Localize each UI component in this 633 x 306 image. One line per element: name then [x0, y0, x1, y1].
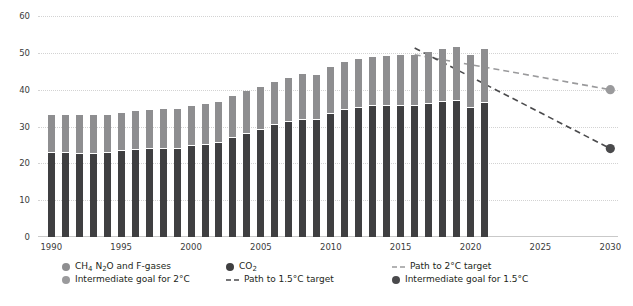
bar	[174, 109, 181, 237]
bar-segment-co2	[397, 106, 404, 237]
bar-segment-other-gases	[62, 115, 69, 152]
bar	[118, 113, 125, 237]
bar-segment-other-gases	[327, 67, 334, 112]
bar-segment-co2	[118, 151, 125, 237]
bar-segment-co2	[369, 106, 376, 237]
bar-segment-other-gases	[481, 49, 488, 102]
bar-segment-co2	[188, 146, 195, 237]
bar-segment-co2	[215, 143, 222, 237]
bar	[327, 67, 334, 237]
bar	[243, 91, 250, 237]
legend-item-ch4-n2o-fgases[interactable]: CH4 N2O and F-gases	[62, 262, 171, 272]
bar-segment-co2	[104, 153, 111, 237]
bar-segment-co2	[174, 149, 181, 237]
bar-segment-other-gases	[299, 74, 306, 118]
x-axis-tick-label: 2020	[460, 242, 482, 252]
bar-segment-other-gases	[369, 57, 376, 105]
x-axis-tick-label: 1990	[40, 242, 62, 252]
bar-segment-other-gases	[467, 55, 474, 108]
bar-segment-other-gases	[132, 111, 139, 149]
legend-dash-icon	[226, 276, 239, 284]
bar	[188, 106, 195, 237]
bar	[160, 109, 167, 237]
gridline	[38, 16, 618, 17]
bar-segment-other-gases	[90, 115, 97, 152]
bar-segment-other-gases	[341, 62, 348, 109]
bar	[481, 49, 488, 237]
bar-segment-other-gases	[453, 47, 460, 100]
x-axis-tick-label: 2010	[320, 242, 342, 252]
bar-segment-other-gases	[383, 56, 390, 105]
y-axis-tick-label: 10	[2, 196, 30, 205]
x-axis-tick-label: 2025	[530, 242, 552, 252]
x-axis-tick-label: 2005	[250, 242, 272, 252]
bar-segment-co2	[439, 102, 446, 237]
bar-segment-other-gases	[355, 59, 362, 107]
bar-segment-other-gases	[257, 87, 264, 129]
bar-segment-co2	[76, 154, 83, 237]
bar	[425, 52, 432, 237]
y-axis-tick-label: 20	[2, 159, 30, 168]
bar	[383, 56, 390, 237]
bar	[369, 57, 376, 237]
bar-segment-other-gases	[439, 49, 446, 101]
bar-segment-co2	[425, 104, 432, 237]
x-axis-tick-label: 2000	[180, 242, 202, 252]
legend-dash-icon	[392, 263, 405, 271]
bar-segment-co2	[467, 108, 474, 237]
bar-segment-other-gases	[146, 110, 153, 148]
legend-item-intermediate-goal-1-5c[interactable]: Intermediate goal for 1.5°C	[392, 275, 528, 285]
y-axis-tick-label: 60	[2, 12, 30, 21]
gridline	[38, 53, 618, 54]
x-axis-tick-label: 2030	[599, 242, 621, 252]
bar-segment-other-gases	[425, 52, 432, 103]
x-axis-tick-label: 2015	[390, 242, 412, 252]
bar	[467, 55, 474, 237]
bar-segment-co2	[90, 154, 97, 237]
legend-item-label: CH4 N2O and F-gases	[75, 262, 171, 272]
goal-marker-dot	[606, 144, 615, 153]
bar-segment-other-gases	[104, 115, 111, 153]
legend-dot-icon	[62, 276, 70, 284]
plot-area	[38, 16, 618, 237]
bar-segment-co2	[62, 153, 69, 237]
legend-dot-icon	[226, 263, 234, 271]
legend-item-path-to-2c[interactable]: Path to 2°C target	[392, 262, 491, 272]
bar-segment-co2	[243, 134, 250, 237]
bar-segment-co2	[271, 125, 278, 237]
bar	[397, 55, 404, 237]
bar	[285, 78, 292, 237]
legend-item-co2[interactable]: CO2	[226, 262, 257, 272]
bar	[146, 110, 153, 237]
bar-segment-co2	[132, 150, 139, 237]
bar-segment-co2	[146, 149, 153, 237]
bar	[257, 87, 264, 237]
y-axis-tick-label: 0	[2, 233, 30, 242]
bar	[271, 82, 278, 237]
bar	[202, 104, 209, 237]
bar	[453, 47, 460, 237]
bar-segment-other-gases	[229, 96, 236, 137]
legend-item-path-to-1-5c[interactable]: Path to 1.5°C target	[226, 275, 334, 285]
bar-segment-co2	[257, 130, 264, 237]
bar-segment-other-gases	[411, 55, 418, 106]
bar-segment-co2	[327, 114, 334, 237]
legend-item-intermediate-goal-2c[interactable]: Intermediate goal for 2°C	[62, 275, 190, 285]
bar	[215, 102, 222, 237]
legend-dot-icon	[62, 263, 70, 271]
bar-segment-other-gases	[313, 75, 320, 120]
bar-segment-other-gases	[174, 109, 181, 148]
legend-item-label: Intermediate goal for 1.5°C	[405, 275, 528, 285]
bar	[411, 55, 418, 237]
legend-item-label: Path to 2°C target	[410, 262, 491, 272]
bar	[104, 115, 111, 237]
bar-segment-co2	[341, 110, 348, 237]
bar	[299, 74, 306, 237]
bar	[341, 62, 348, 237]
bar-segment-co2	[160, 149, 167, 237]
bar	[439, 49, 446, 237]
bar-segment-other-gases	[271, 82, 278, 125]
bar	[355, 59, 362, 237]
bar-segment-co2	[202, 145, 209, 237]
bar-segment-other-gases	[118, 113, 125, 151]
